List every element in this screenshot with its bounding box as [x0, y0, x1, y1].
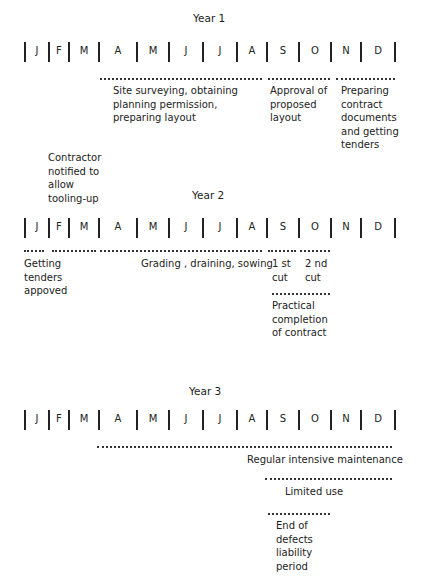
month-divider-tick: [360, 42, 362, 62]
month-divider-tick: [360, 218, 362, 238]
month-divider-tick: [394, 42, 396, 62]
month-label: O: [305, 413, 325, 424]
month-divider-tick: [394, 218, 396, 238]
year-2-activity-practical-completion: Practical completion of contract: [272, 299, 328, 340]
month-label: J: [27, 221, 47, 232]
month-label: S: [273, 413, 293, 424]
month-divider-tick: [236, 218, 238, 238]
month-divider-tick: [266, 218, 268, 238]
year-2-activity-1st-cut: 1 st cut: [272, 257, 291, 284]
month-label: J: [176, 45, 196, 56]
month-divider-tick: [360, 410, 362, 430]
month-divider-tick: [24, 410, 26, 430]
month-label: S: [273, 221, 293, 232]
year-1-span-site-surveying: [100, 78, 262, 80]
month-divider-tick: [236, 42, 238, 62]
month-label: J: [27, 45, 47, 56]
month-divider-tick: [98, 42, 100, 62]
month-divider-tick: [168, 42, 170, 62]
year-1-title: Year 1: [193, 12, 225, 24]
month-label: J: [210, 45, 230, 56]
month-label: N: [336, 413, 356, 424]
month-divider-tick: [98, 410, 100, 430]
year-1-activity-approval: Approval of proposed layout: [270, 84, 327, 125]
year-3-span-end-of-defects: [268, 513, 330, 515]
year-2-span-contractor-tooling: [52, 250, 96, 252]
month-label: A: [108, 413, 128, 424]
month-divider-tick: [98, 218, 100, 238]
month-label: F: [49, 413, 69, 424]
year-2-span-2nd-cut: [300, 250, 330, 252]
year-2-title: Year 2: [192, 189, 224, 201]
month-label: F: [49, 45, 69, 56]
year-2-month-bar: JFMAMJJASOND: [24, 218, 396, 238]
year-3-activity-end-of-defects: End of defects liability period: [276, 519, 313, 573]
month-divider-tick: [330, 42, 332, 62]
year-3-span-regular-maintenance: [97, 446, 392, 448]
year-1-span-preparing-contract: [336, 78, 395, 80]
month-divider-tick: [266, 410, 268, 430]
month-label: A: [108, 221, 128, 232]
month-label: D: [368, 221, 388, 232]
contractor-note: Contractor notified to allow tooling-up: [48, 151, 101, 205]
month-divider-tick: [298, 410, 300, 430]
month-divider-tick: [266, 42, 268, 62]
month-divider-tick: [24, 42, 26, 62]
month-divider-tick: [202, 410, 204, 430]
month-label: A: [242, 45, 262, 56]
month-label: M: [143, 45, 163, 56]
month-label: J: [210, 221, 230, 232]
month-divider-tick: [168, 410, 170, 430]
year-3-span-limited-use: [265, 478, 392, 480]
year-2-span-grading: [100, 250, 262, 252]
month-label: J: [176, 413, 196, 424]
month-label: D: [368, 45, 388, 56]
month-label: M: [74, 413, 94, 424]
month-divider-tick: [24, 218, 26, 238]
year-3-activity-limited-use: Limited use: [285, 485, 343, 499]
month-label: A: [242, 221, 262, 232]
month-label: M: [74, 45, 94, 56]
year-2-span-practical-completion: [272, 293, 330, 295]
month-label: J: [210, 413, 230, 424]
month-divider-tick: [202, 42, 204, 62]
year-1-activity-preparing-contract: Preparing contract documents and getting…: [341, 84, 399, 152]
month-label: J: [176, 221, 196, 232]
month-divider-tick: [298, 218, 300, 238]
month-divider-tick: [136, 218, 138, 238]
month-label: O: [305, 45, 325, 56]
month-divider-tick: [236, 410, 238, 430]
month-label: A: [108, 45, 128, 56]
month-divider-tick: [136, 42, 138, 62]
month-label: F: [49, 221, 69, 232]
month-label: S: [273, 45, 293, 56]
month-divider-tick: [394, 410, 396, 430]
month-divider-tick: [168, 218, 170, 238]
month-divider-tick: [298, 42, 300, 62]
month-label: A: [242, 413, 262, 424]
month-divider-tick: [136, 410, 138, 430]
year-1-span-approval: [268, 78, 330, 80]
year-2-activity-grading: Grading , draining, sowing: [141, 257, 273, 271]
year-1-activity-site-surveying: Site surveying, obtaining planning permi…: [113, 84, 238, 125]
year-3-month-bar: JFMAMJJASOND: [24, 410, 396, 430]
year-2-span-1st-cut: [268, 250, 296, 252]
year-2-activity-2nd-cut: 2 nd cut: [305, 257, 327, 284]
year-2-activity-getting-tenders: Getting tenders appoved: [24, 257, 67, 298]
year-1-month-bar: JFMAMJJASOND: [24, 42, 396, 62]
month-label: M: [143, 413, 163, 424]
month-label: M: [74, 221, 94, 232]
year-2-span-getting-tenders: [24, 250, 44, 252]
year-3-activity-regular-maintenance: Regular intensive maintenance: [247, 453, 403, 467]
month-label: N: [336, 221, 356, 232]
month-label: N: [336, 45, 356, 56]
month-divider-tick: [330, 410, 332, 430]
month-label: D: [368, 413, 388, 424]
month-label: M: [143, 221, 163, 232]
year-3-title: Year 3: [189, 385, 221, 397]
month-label: O: [305, 221, 325, 232]
month-divider-tick: [202, 218, 204, 238]
month-label: J: [27, 413, 47, 424]
month-divider-tick: [330, 218, 332, 238]
